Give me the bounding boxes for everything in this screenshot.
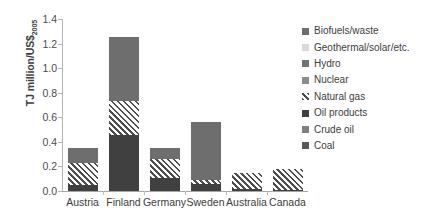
x-axis-separator: [144, 191, 145, 195]
x-axis-separator: [103, 191, 104, 195]
bar-segment-gas: [109, 101, 139, 134]
y-axis-title-main: TJ million/US$: [24, 35, 36, 106]
legend-label: Hydro: [314, 59, 341, 69]
legend-label: Oil products: [314, 108, 367, 118]
legend-label: Biofuels/waste: [314, 26, 378, 36]
chart-legend: Biofuels/wasteGeothermal/solar/etc.Hydro…: [302, 23, 434, 154]
x-axis-label-finland: Finland: [106, 196, 140, 208]
y-axis-tick-label: 0.4: [42, 136, 57, 148]
legend-item[interactable]: Hydro: [302, 56, 434, 72]
legend-label: Natural gas: [314, 92, 365, 102]
y-axis-tick-label: 0.0: [42, 185, 57, 197]
x-axis-separator: [267, 191, 268, 195]
bar-segment-bio: [150, 148, 180, 159]
bar-segment-bio: [68, 148, 98, 163]
legend-swatch-biofuels-icon: [302, 28, 309, 35]
x-axis-label-austria: Austria: [66, 196, 99, 208]
bar-segment-bio: [191, 122, 221, 180]
bar-group: [191, 122, 221, 191]
legend-item[interactable]: Oil products: [302, 105, 434, 121]
bar-segment-oil: [150, 178, 180, 192]
bar-group: [273, 169, 303, 191]
legend-item[interactable]: Natural gas: [302, 89, 434, 105]
bar-group-container: [62, 19, 308, 191]
x-axis-separator: [226, 191, 227, 195]
legend-item[interactable]: Nuclear: [302, 72, 434, 88]
x-axis-separator: [185, 191, 186, 195]
legend-swatch-natural-gas-icon: [302, 93, 309, 100]
legend-label: Nuclear: [314, 75, 348, 85]
legend-item[interactable]: Coal: [302, 138, 434, 154]
bar-group: [109, 37, 139, 191]
plot-area: 1.41.21.00.80.60.40.20.0: [62, 19, 308, 191]
y-axis-title: TJ million/US$2005: [24, 0, 38, 128]
legend-label: Coal: [314, 141, 335, 151]
legend-swatch-geothermal-icon: [302, 44, 309, 51]
x-axis-label-group: AustriaFinlandGermanySwedenAustraliaCana…: [62, 196, 308, 216]
bar-group: [68, 148, 98, 191]
y-axis-tick-label: 0.6: [42, 111, 57, 123]
bar-segment-gas: [232, 173, 262, 189]
legend-swatch-nuclear-icon: [302, 77, 309, 84]
bar-group: [150, 148, 180, 191]
bar-segment-oil: [68, 185, 98, 191]
bar-segment-oil: [273, 190, 303, 191]
y-axis-title-subscript: 2005: [31, 20, 38, 35]
y-axis-tick-label: 1.2: [42, 38, 57, 50]
bar-segment-gas: [150, 159, 180, 177]
legend-swatch-coal-icon: [302, 142, 309, 149]
x-axis-label-germany: Germany: [143, 196, 186, 208]
legend-label: Geothermal/solar/etc.: [314, 43, 410, 53]
legend-item[interactable]: Geothermal/solar/etc.: [302, 39, 434, 55]
bar-segment-gas: [68, 163, 98, 185]
x-axis-label-canada: Canada: [269, 196, 306, 208]
bar-segment-oil: [191, 184, 221, 191]
bar-segment-bio: [109, 37, 139, 101]
legend-item[interactable]: Biofuels/waste: [302, 23, 434, 39]
y-axis-tick-label: 1.4: [42, 13, 57, 25]
y-axis-tick-label: 0.2: [42, 160, 57, 172]
legend-swatch-hydro-icon: [302, 60, 309, 67]
legend-swatch-oil-products-icon: [302, 110, 309, 117]
y-axis-tick-mark: [58, 191, 62, 192]
bar-segment-oil: [109, 135, 139, 192]
x-axis-label-australia: Australia: [226, 196, 267, 208]
y-axis-tick-label: 0.8: [42, 87, 57, 99]
x-axis-label-sweden: Sweden: [187, 196, 225, 208]
stacked-bar-chart: TJ million/US$2005 1.41.21.00.80.60.40.2…: [0, 0, 435, 222]
legend-label: Crude oil: [314, 125, 354, 135]
bar-segment-gas: [273, 169, 303, 190]
y-axis-tick-label: 1.0: [42, 62, 57, 74]
legend-swatch-crude-oil-icon: [302, 126, 309, 133]
bar-segment-oil: [232, 189, 262, 191]
bar-group: [232, 173, 262, 191]
legend-item[interactable]: Crude oil: [302, 121, 434, 137]
